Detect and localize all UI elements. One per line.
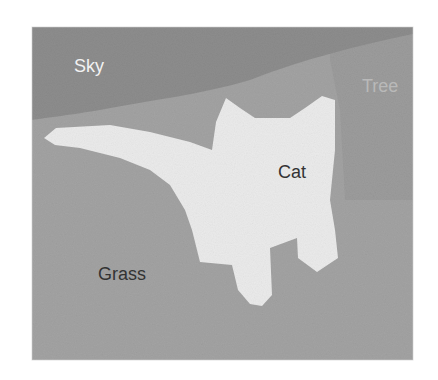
label-tree: Tree xyxy=(362,77,398,95)
label-grass: Grass xyxy=(98,265,146,283)
segmentation-figure: Sky Tree Cat Grass xyxy=(0,0,438,380)
segmentation-map xyxy=(0,0,438,380)
label-cat: Cat xyxy=(278,163,306,181)
label-sky: Sky xyxy=(74,57,104,75)
